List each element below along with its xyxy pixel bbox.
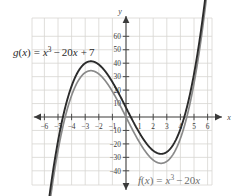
- x-tick-label: −3: [81, 122, 89, 131]
- g-equation-text: g(x)=x3−20x+7: [13, 45, 95, 59]
- x-tick-label: −2: [95, 122, 103, 131]
- coordinate-plane-plot: −6−5−4−3−2−1123456 −40−30−20−10102030405…: [0, 0, 242, 196]
- y-tick-label: −30: [109, 153, 121, 162]
- f-exponent: 3: [170, 173, 174, 182]
- g-exponent: 3: [48, 45, 52, 54]
- g-coefficient-variable: x: [72, 46, 78, 58]
- g-equals: =: [34, 46, 40, 58]
- g-plus-sign: +: [81, 46, 87, 58]
- x-tick-label: −4: [68, 122, 76, 131]
- f-minus-sign: −: [176, 174, 182, 186]
- y-tick-label: −40: [109, 167, 121, 176]
- f-equals: =: [156, 174, 162, 186]
- f-equation-text: f(x)=x3−20x: [138, 173, 200, 187]
- g-minus-sign: −: [54, 46, 60, 58]
- f-coefficient-variable: x: [194, 174, 200, 186]
- graph-figure: −6−5−4−3−2−1123456 −40−30−20−10102030405…: [0, 0, 242, 196]
- g-constant: 7: [89, 46, 95, 58]
- x-tick-label: 5: [192, 122, 196, 131]
- y-tick-label: 40: [114, 59, 122, 68]
- x-axis-label: x: [226, 113, 231, 122]
- g-equation-annotation: g(x)=x3−20x+7: [13, 45, 95, 59]
- y-tick-label: 30: [114, 72, 122, 81]
- f-equation-annotation: f(x)=x3−20x: [138, 173, 200, 187]
- f-close-paren: ): [150, 174, 154, 187]
- x-tick-label: −6: [40, 122, 48, 131]
- y-tick-label: 50: [114, 45, 122, 54]
- x-tick-label: 2: [151, 122, 155, 131]
- y-tick-label: −20: [109, 140, 121, 149]
- g-close-paren: ): [27, 46, 31, 59]
- y-axis-label: y: [117, 7, 122, 16]
- g-coefficient: 20: [62, 46, 74, 58]
- x-tick-label: 3: [165, 122, 169, 131]
- f-coefficient: 20: [184, 174, 196, 186]
- x-tick-label: 6: [206, 122, 210, 131]
- y-tick-label: 60: [114, 32, 122, 41]
- y-tick-label: −10: [109, 126, 121, 135]
